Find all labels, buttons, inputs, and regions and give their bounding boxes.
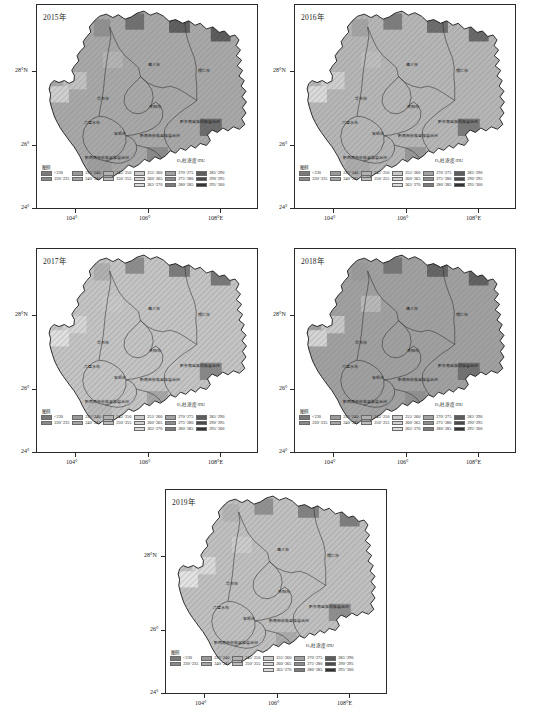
legend-item[interactable]: 295~300 <box>325 668 353 673</box>
place-label: 六盘水市 <box>342 120 358 125</box>
place-label: 六盘水市 <box>84 364 100 369</box>
legend-item[interactable]: <230 <box>41 171 69 176</box>
legend-item[interactable]: 290~295 <box>196 421 224 426</box>
legend-item[interactable]: 235~240 <box>330 415 358 420</box>
legend-item[interactable]: 240~245 <box>330 421 358 426</box>
legend-swatch <box>325 656 336 661</box>
legend-item[interactable]: 250~255 <box>103 421 131 426</box>
place-label: 遵义市 <box>406 62 418 67</box>
legend-item[interactable]: 240~245 <box>72 177 100 182</box>
legend-swatch <box>165 421 176 426</box>
legend-item[interactable]: 235~240 <box>330 171 358 176</box>
legend-item[interactable]: 240~245 <box>330 177 358 182</box>
legend-item-label: 240~245 <box>343 177 358 181</box>
legend-item[interactable]: 245~250 <box>232 656 260 661</box>
legend-item[interactable]: 230~235 <box>41 421 69 426</box>
legend-item[interactable]: <230 <box>299 415 327 420</box>
legend-item[interactable]: 255~260 <box>263 656 291 661</box>
legend-item[interactable]: 275~280 <box>165 421 193 426</box>
legend-item[interactable]: 285~290 <box>325 656 353 661</box>
legend-item[interactable]: 270~275 <box>165 415 193 420</box>
legend-item[interactable]: 230~235 <box>299 177 327 182</box>
legend-column: <230230~235 <box>41 171 69 187</box>
legend-item[interactable]: 255~260 <box>134 415 162 420</box>
legend-item[interactable]: 245~250 <box>361 171 389 176</box>
legend-column: 255~260260~265265~270 <box>134 171 162 187</box>
legend-item[interactable]: 290~295 <box>325 662 353 667</box>
legend-item[interactable]: 235~240 <box>72 171 100 176</box>
legend-item[interactable]: 280~285 <box>423 183 451 188</box>
legend-swatch <box>263 668 274 673</box>
legend-item[interactable]: 270~275 <box>294 656 322 661</box>
legend-item[interactable]: 260~265 <box>134 421 162 426</box>
legend-column: <230230~235 <box>170 656 198 672</box>
y-tick-label: 28°N <box>15 67 28 73</box>
legend-item[interactable]: 270~275 <box>423 415 451 420</box>
legend-item[interactable]: 255~260 <box>392 171 420 176</box>
legend-item[interactable]: 250~255 <box>361 421 389 426</box>
legend-item[interactable]: 265~270 <box>134 427 162 432</box>
legend-item[interactable]: 290~295 <box>454 177 482 182</box>
legend-item-label: 295~300 <box>209 427 224 431</box>
legend-item[interactable]: 285~290 <box>196 415 224 420</box>
legend-item[interactable]: 290~295 <box>454 421 482 426</box>
legend-item[interactable]: 235~240 <box>72 415 100 420</box>
legend-item[interactable]: <230 <box>299 171 327 176</box>
legend-item[interactable]: 265~270 <box>134 183 162 188</box>
y-tick-mark <box>32 315 36 316</box>
legend-swatch <box>294 662 305 667</box>
legend-item[interactable]: 280~285 <box>165 427 193 432</box>
panel-2019: 2019年 28°N 26° 24° 104° 106° 108°E 遵义市铜仁… <box>156 489 388 713</box>
legend-item[interactable]: 265~270 <box>392 427 420 432</box>
legend-item[interactable]: 230~235 <box>170 662 198 667</box>
legend-item[interactable]: 245~250 <box>103 415 131 420</box>
legend-item[interactable]: 295~300 <box>196 427 224 432</box>
legend-item[interactable]: 265~270 <box>392 183 420 188</box>
legend-item[interactable]: 285~290 <box>454 171 482 176</box>
panel-2016: 2016年 28°N 26° 24° 104° 106° 108°E 遵义市铜仁… <box>285 4 517 228</box>
legend-item[interactable]: 265~270 <box>263 668 291 673</box>
legend-item[interactable]: 260~265 <box>392 421 420 426</box>
legend-item[interactable]: 250~255 <box>103 177 131 182</box>
legend-item[interactable]: 230~235 <box>299 421 327 426</box>
legend-swatch <box>232 656 243 661</box>
legend-item[interactable]: 285~290 <box>454 415 482 420</box>
legend-item[interactable]: 245~250 <box>103 171 131 176</box>
legend-item[interactable]: 250~255 <box>361 177 389 182</box>
legend-item-label: 285~290 <box>209 171 224 175</box>
legend-item[interactable]: 240~245 <box>201 662 229 667</box>
legend-item[interactable]: 235~240 <box>201 656 229 661</box>
legend-column: 270~275275~280280~285 <box>423 415 451 431</box>
legend-item[interactable]: 280~285 <box>165 183 193 188</box>
legend-item[interactable]: 270~275 <box>423 171 451 176</box>
legend-item[interactable]: 240~245 <box>72 421 100 426</box>
legend-swatch <box>170 656 181 661</box>
legend-item[interactable]: 280~285 <box>423 427 451 432</box>
legend-item[interactable]: 280~285 <box>294 668 322 673</box>
legend-item-label: 245~250 <box>374 415 389 419</box>
legend-swatch <box>201 656 212 661</box>
legend-item[interactable]: 270~275 <box>165 171 193 176</box>
legend-item[interactable]: 295~300 <box>196 183 224 188</box>
legend-item[interactable]: 250~255 <box>232 662 260 667</box>
legend-item[interactable]: <230 <box>41 415 69 420</box>
legend-item[interactable]: 275~280 <box>165 177 193 182</box>
legend-swatch <box>165 171 176 176</box>
legend-item[interactable]: 255~260 <box>134 171 162 176</box>
legend-item[interactable]: 260~265 <box>392 177 420 182</box>
x-tick-label: 104° <box>195 700 206 706</box>
legend-item[interactable]: 230~235 <box>41 177 69 182</box>
legend-item[interactable]: 255~260 <box>392 415 420 420</box>
legend-item[interactable]: 275~280 <box>423 177 451 182</box>
legend-item[interactable]: 275~280 <box>423 421 451 426</box>
legend-item[interactable]: 260~265 <box>134 177 162 182</box>
legend-item[interactable]: 275~280 <box>294 662 322 667</box>
legend-item[interactable]: 285~290 <box>196 171 224 176</box>
legend-item[interactable]: 290~295 <box>196 177 224 182</box>
legend-item[interactable]: <230 <box>170 656 198 661</box>
legend-item[interactable]: 260~265 <box>263 662 291 667</box>
x-tick-mark <box>220 209 221 213</box>
legend-item[interactable]: 295~300 <box>454 427 482 432</box>
legend-item[interactable]: 245~250 <box>361 415 389 420</box>
legend-item[interactable]: 295~300 <box>454 183 482 188</box>
